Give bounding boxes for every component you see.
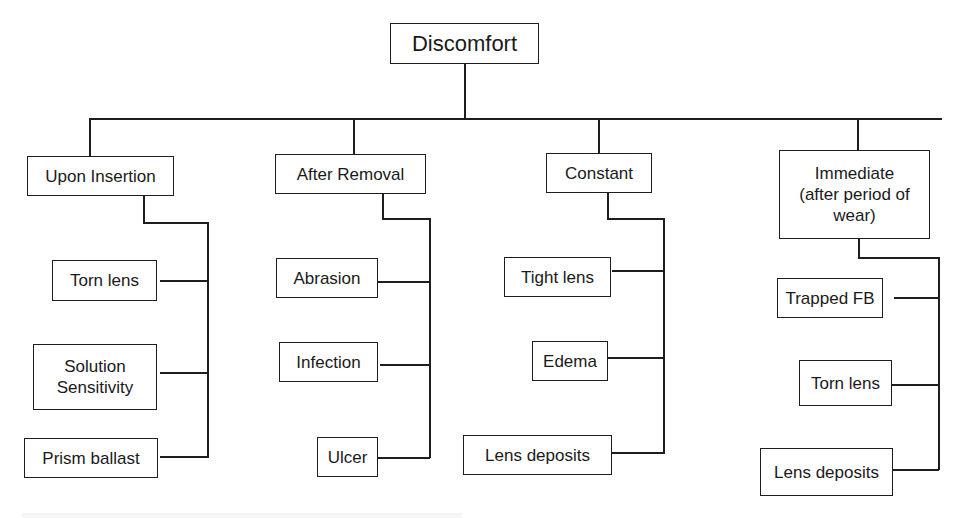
connector-drop-after-removal <box>353 118 355 155</box>
connector-spine-after-removal <box>429 218 431 458</box>
cause-tight-lens: Tight lens <box>504 257 611 297</box>
connector <box>612 270 664 272</box>
connector <box>893 469 939 471</box>
category-after-removal: After Removal <box>275 154 426 194</box>
cause-label-line2: Sensitivity <box>57 377 134 398</box>
category-label-line2: (after period of <box>799 184 910 205</box>
connector-drop-upon-insertion <box>89 118 91 158</box>
connector <box>380 364 430 366</box>
connector <box>382 218 430 220</box>
connector-drop-constant <box>598 118 600 154</box>
connector <box>143 222 208 224</box>
connector <box>143 196 145 223</box>
root-label: Discomfort <box>412 33 517 54</box>
connector <box>892 384 939 386</box>
cause-infection: Infection <box>279 342 378 382</box>
connector <box>160 280 208 282</box>
cause-label: Lens deposits <box>774 462 879 483</box>
cause-label: Torn lens <box>70 270 139 291</box>
connector <box>608 357 664 359</box>
connector-spine-constant <box>663 218 665 454</box>
connector <box>382 194 384 219</box>
connector <box>160 372 208 374</box>
connector-drop-immediate <box>857 118 859 151</box>
connector <box>858 257 939 259</box>
cause-trapped-fb: Trapped FB <box>777 278 883 318</box>
connector <box>378 281 430 283</box>
cause-label: Lens deposits <box>485 445 590 466</box>
cause-abrasion: Abrasion <box>276 258 378 298</box>
connector <box>160 456 208 458</box>
cause-label: Abrasion <box>293 268 360 289</box>
figure-caption-faint <box>22 513 462 518</box>
connector-spine-immediate <box>938 257 940 470</box>
cause-label: Torn lens <box>811 373 880 394</box>
category-label-line3: wear) <box>799 205 910 226</box>
connector <box>612 452 664 454</box>
category-label: Upon Insertion <box>45 166 156 187</box>
connector <box>894 297 939 299</box>
cause-edema: Edema <box>532 341 608 381</box>
root-node-discomfort: Discomfort <box>390 23 539 64</box>
connector <box>607 193 609 219</box>
category-label: Constant <box>565 163 633 184</box>
cause-torn-lens: Torn lens <box>52 260 157 301</box>
cause-label-line1: Solution <box>57 356 134 377</box>
category-immediate: Immediate (after period of wear) <box>779 150 930 239</box>
cause-prism-ballast: Prism ballast <box>24 438 158 478</box>
connector-category-bus <box>89 118 942 120</box>
cause-lens-deposits: Lens deposits <box>463 435 612 475</box>
cause-label: Edema <box>543 351 597 372</box>
connector <box>607 218 664 220</box>
cause-label: Ulcer <box>328 447 368 468</box>
category-label: After Removal <box>297 164 405 185</box>
cause-solution-sensitivity: Solution Sensitivity <box>33 344 157 410</box>
category-upon-insertion: Upon Insertion <box>27 156 174 196</box>
cause-label: Infection <box>296 352 360 373</box>
category-constant: Constant <box>546 153 652 193</box>
connector <box>378 457 430 459</box>
cause-ulcer: Ulcer <box>317 437 378 477</box>
connector-spine-upon-insertion <box>207 222 209 458</box>
category-label-line1: Immediate <box>799 163 910 184</box>
cause-label: Tight lens <box>521 267 594 288</box>
cause-label: Trapped FB <box>785 288 874 309</box>
cause-torn-lens-immediate: Torn lens <box>799 360 892 406</box>
cause-label: Prism ballast <box>42 448 139 469</box>
connector <box>858 239 860 258</box>
cause-lens-deposits-immediate: Lens deposits <box>760 448 893 496</box>
connector-root-trunk <box>464 64 466 119</box>
